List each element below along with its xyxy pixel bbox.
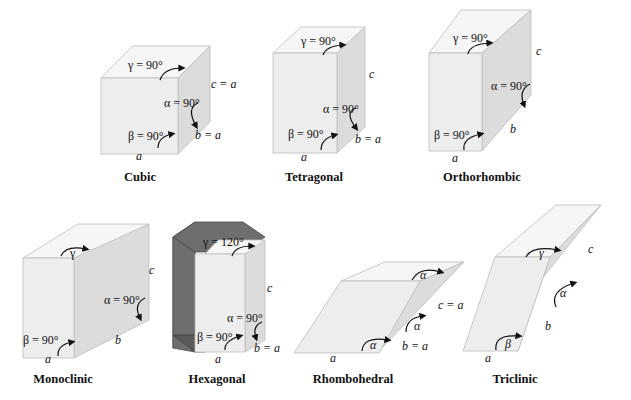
monoclinic-c-label: c [149, 263, 155, 277]
orthorhombic-b-label: b [510, 122, 516, 136]
triclinic-a-label: a [485, 351, 491, 365]
rhombohedral-alpha-front-label: α [370, 338, 377, 352]
tetragonal-alpha-label: α = 90° [323, 102, 359, 116]
tetragonal-cell: γ = 90° α = 90° β = 90° c b = a a Tetrag… [273, 27, 381, 184]
cubic-gamma-label: γ = 90° [127, 58, 163, 72]
triclinic-b-label: b [545, 319, 551, 333]
hexagonal-title: Hexagonal [189, 372, 246, 386]
orthorhombic-cell: γ = 90° α = 90° β = 90° c b a Orthorhomb… [429, 10, 542, 184]
hexagonal-alpha-label: α = 90° [227, 311, 263, 325]
tetragonal-gamma-label: γ = 90° [300, 34, 336, 48]
cubic-title: Cubic [124, 170, 156, 184]
triclinic-beta-label: β [504, 337, 511, 351]
triclinic-cell: γ α β c b a Triclinic [463, 205, 601, 386]
rhombohedral-cell: α α α c = a b = a a Rhombohedral [294, 262, 464, 386]
rhombohedral-title: Rhombohedral [313, 372, 394, 386]
triclinic-title: Triclinic [493, 372, 538, 386]
monoclinic-title: Monoclinic [33, 372, 93, 386]
rhombohedral-a-label: a [330, 351, 336, 365]
cubic-alpha-label: α = 90° [164, 96, 200, 110]
cubic-a-label: a [136, 149, 142, 163]
monoclinic-alpha-label: α = 90° [104, 293, 140, 307]
cubic-beta-label: β = 90° [128, 129, 164, 143]
tetragonal-b-label: b = a [355, 132, 381, 146]
orthorhombic-c-label: c [536, 44, 542, 58]
rhombohedral-alpha-side-label: α [414, 319, 421, 333]
hexagonal-b-label: b = a [254, 341, 280, 355]
monoclinic-cell: γ α = 90° β = 90° c b a Monoclinic [23, 224, 155, 386]
hexagonal-c-label: c [267, 281, 273, 295]
triclinic-c-label: c [588, 242, 594, 256]
tetragonal-beta-label: β = 90° [288, 127, 324, 141]
rhombohedral-c-label: c = a [438, 298, 463, 312]
hexagonal-cell: γ = 120° α = 90° β = 90° c b = a a Hexag… [173, 222, 280, 386]
triclinic-gamma-label: γ [539, 246, 544, 260]
orthorhombic-gamma-label: γ = 90° [452, 31, 488, 45]
tetragonal-title: Tetragonal [285, 170, 343, 184]
monoclinic-beta-label: β = 90° [23, 333, 59, 347]
rhombohedral-alpha-top-label: α [420, 268, 427, 282]
cubic-cell: γ = 90° α = 90° β = 90° c = a b = a a Cu… [101, 46, 236, 184]
crystal-systems-figure: γ = 90° α = 90° β = 90° c = a b = a a Cu… [0, 0, 631, 400]
cubic-c-label: c = a [211, 77, 236, 91]
hexagonal-gamma-label: γ = 120° [202, 235, 244, 249]
rhombohedral-b-label: b = a [402, 339, 428, 353]
monoclinic-b-label: b [115, 333, 121, 347]
hexagonal-a-label: a [215, 352, 221, 366]
cubic-b-label: b = a [195, 128, 221, 142]
triclinic-alpha-label: α [560, 286, 567, 300]
orthorhombic-title: Orthorhombic [443, 170, 521, 184]
hexagonal-beta-label: β = 90° [197, 330, 233, 344]
tetragonal-c-label: c [369, 67, 375, 81]
monoclinic-a-label: a [45, 352, 51, 366]
orthorhombic-alpha-label: α = 90° [491, 79, 527, 93]
tetragonal-a-label: a [301, 150, 307, 164]
orthorhombic-beta-label: β = 90° [434, 128, 470, 142]
orthorhombic-a-label: a [452, 151, 458, 165]
monoclinic-gamma-label: γ [69, 246, 76, 260]
